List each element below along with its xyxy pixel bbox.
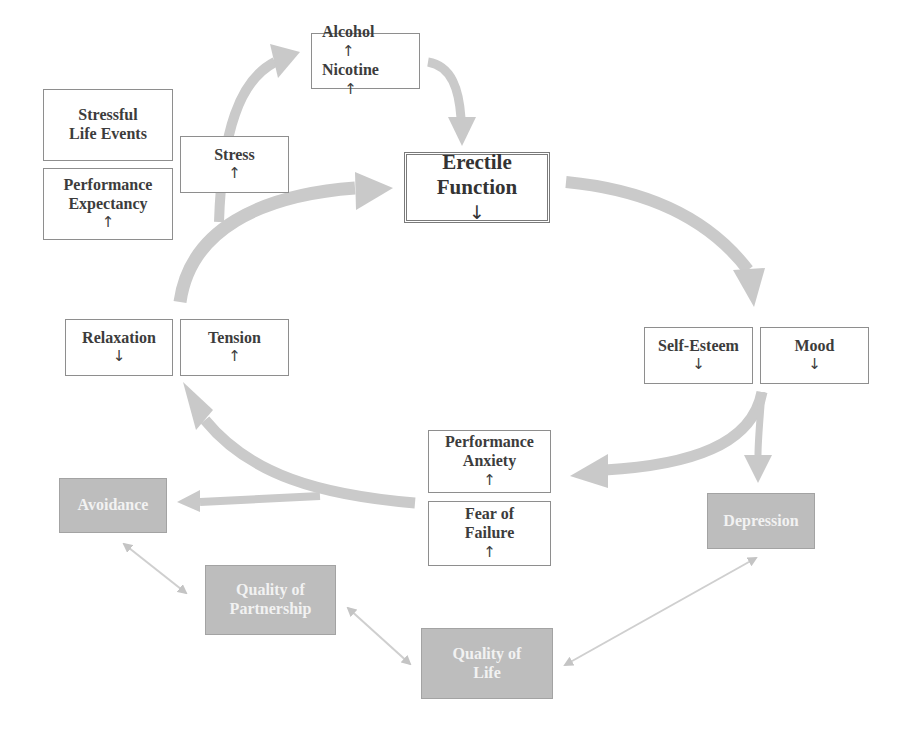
arrowhead-alcohol — [270, 44, 300, 78]
arrow-alcohol-to-erectile — [428, 62, 461, 118]
link-life-depression — [565, 558, 756, 665]
up-arrow-icon: ↑ — [228, 348, 241, 366]
up-arrow-icon: ↑ — [228, 165, 241, 183]
arrow-erectile-to-selfesteem — [566, 182, 748, 270]
arrowhead-erectile-left — [355, 172, 393, 210]
node-mood: Mood ↓ — [760, 327, 869, 384]
up-arrow-icon: ↑ — [483, 471, 496, 489]
node-performance-anxiety: Performance Anxiety ↑ — [428, 430, 551, 493]
node-stress: Stress ↑ — [180, 136, 289, 193]
arrowhead-depression — [744, 455, 772, 483]
up-arrow-icon: ↑ — [342, 42, 355, 60]
node-erectile-function: Erectile Function ↓ — [404, 152, 550, 223]
arrowhead-anxiety — [570, 454, 608, 488]
node-tension: Tension ↑ — [180, 319, 289, 376]
link-avoidance-partnership — [124, 544, 186, 593]
node-self-esteem: Self-Esteem ↓ — [644, 327, 753, 384]
down-arrow-icon: ↓ — [808, 356, 821, 374]
arrowhead-selfesteem — [733, 268, 765, 307]
down-arrow-icon: ↓ — [469, 201, 485, 223]
node-relaxation: Relaxation ↓ — [65, 319, 173, 376]
down-arrow-icon: ↓ — [692, 356, 705, 374]
arrow-anxiety-to-relaxation — [205, 420, 415, 503]
arrowhead-erectile-top — [448, 117, 476, 146]
node-depression: Depression — [707, 493, 815, 549]
node-quality-of-partnership: Quality of Partnership — [205, 565, 336, 635]
node-avoidance: Avoidance — [59, 478, 167, 533]
up-arrow-icon: ↑ — [102, 213, 115, 231]
node-alcohol-nicotine: Alcohol ↑ Nicotine ↑ — [311, 33, 420, 89]
node-quality-of-life: Quality of Life — [421, 628, 553, 699]
node-fear-of-failure: Fear of Failure ↑ — [428, 501, 551, 566]
node-performance-expectancy: Performance Expectancy ↑ — [43, 168, 173, 240]
arrow-tension-to-erectile — [180, 188, 355, 302]
arrow-mood-to-depression — [758, 392, 762, 455]
up-arrow-icon: ↑ — [483, 543, 496, 561]
arrow-mood-to-anxiety — [605, 392, 762, 470]
down-arrow-icon: ↓ — [113, 348, 126, 366]
arrow-anxiety-to-avoidance — [200, 496, 320, 502]
node-stressful-life-events: Stressful Life Events — [43, 89, 173, 161]
up-arrow-icon: ↑ — [344, 80, 357, 98]
arrowhead-avoidance — [177, 490, 200, 512]
vicious-cycle-diagram: Alcohol ↑ Nicotine ↑ Stressful Life Even… — [0, 0, 908, 741]
link-partnership-life — [348, 608, 410, 664]
